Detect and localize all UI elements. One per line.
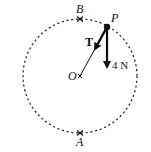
label-t: T: [85, 35, 93, 49]
particle-p-dot: [104, 24, 110, 30]
label-b: B: [76, 2, 84, 16]
tension-arrow: [95, 27, 107, 49]
circular-motion-diagram: B P T O 4 N A: [0, 0, 151, 152]
diagram-canvas: B P T O 4 N A: [0, 0, 151, 152]
label-weight: 4 N: [112, 59, 128, 71]
label-o: O: [68, 69, 77, 83]
label-p: P: [110, 11, 119, 25]
label-a: A: [75, 135, 84, 149]
